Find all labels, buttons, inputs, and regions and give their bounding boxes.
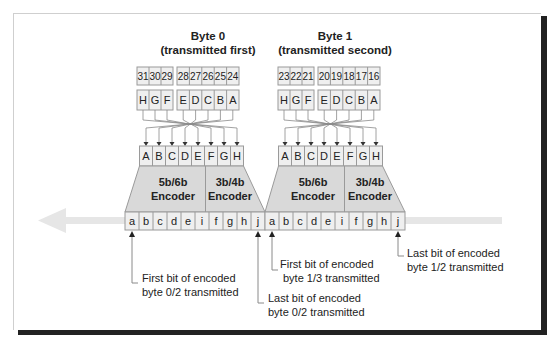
svg-text:e: e xyxy=(325,215,331,227)
byte-1-3b4b-label: 3b/4b xyxy=(356,176,385,188)
svg-text:A: A xyxy=(370,94,378,106)
byte-1-bit-reversal-wires xyxy=(284,110,376,142)
svg-text:25: 25 xyxy=(215,71,227,82)
svg-text:A: A xyxy=(281,150,289,162)
svg-text:F: F xyxy=(305,94,312,106)
svg-text:h: h xyxy=(241,215,247,227)
byte-1-encoded-bits: a b c d e i f g h j xyxy=(265,212,405,230)
svg-text:E: E xyxy=(321,94,328,106)
svg-text:E: E xyxy=(333,150,340,162)
svg-text:byte 0/2 transmitted: byte 0/2 transmitted xyxy=(268,306,365,318)
byte-1-subtitle: (transmitted second) xyxy=(278,44,392,56)
annotation-first-bit-byte-1: First bit of encoded byte 1/3 transmitte… xyxy=(269,231,380,284)
svg-text:a: a xyxy=(129,215,136,227)
annotation-first-bit-byte-0: First bit of encoded byte 0/2 transmitte… xyxy=(129,231,239,298)
svg-text:b: b xyxy=(283,215,289,227)
byte-0-input-letters: H G F E D C B A xyxy=(137,90,239,110)
svg-text:D: D xyxy=(320,150,328,162)
byte-1-reordered-letters: A B C D E F G H xyxy=(279,146,383,166)
svg-text:h: h xyxy=(381,215,387,227)
svg-text:27: 27 xyxy=(190,71,202,82)
svg-text:16: 16 xyxy=(368,71,380,82)
byte-1-bit-numbers: 23 22 21 20 19 18 17 16 xyxy=(278,67,380,85)
svg-text:E: E xyxy=(194,150,201,162)
svg-text:c: c xyxy=(157,215,163,227)
svg-text:B: B xyxy=(217,94,224,106)
svg-text:C: C xyxy=(345,94,353,106)
svg-text:byte 0/2 transmitted: byte 0/2 transmitted xyxy=(142,286,239,298)
byte-0-group: Byte 0 (transmitted first) 31 30 29 28 2… xyxy=(125,30,265,230)
svg-text:C: C xyxy=(168,150,176,162)
svg-text:i: i xyxy=(341,215,343,227)
byte-0-bit-numbers: 31 30 29 28 27 26 25 24 xyxy=(137,67,239,85)
svg-text:byte 1/3 transmitted: byte 1/3 transmitted xyxy=(283,272,380,284)
byte-0-3b4b-label: 3b/4b xyxy=(216,176,245,188)
svg-text:C: C xyxy=(204,94,212,106)
byte-1-input-letters: H G F E D C B A xyxy=(278,90,380,110)
svg-text:C: C xyxy=(307,150,315,162)
svg-text:D: D xyxy=(333,94,341,106)
byte-0-reordered-letters: A B C D E F G H xyxy=(140,146,244,166)
byte-1-title: Byte 1 xyxy=(318,30,353,42)
byte-0-subtitle: (transmitted first) xyxy=(160,44,255,56)
svg-text:H: H xyxy=(233,150,241,162)
svg-text:D: D xyxy=(192,94,200,106)
byte-1-group: Byte 1 (transmitted second) 23 22 21 20 … xyxy=(265,30,405,230)
svg-text:F: F xyxy=(164,94,171,106)
svg-text:byte 1/2 transmitted: byte 1/2 transmitted xyxy=(407,261,504,273)
svg-text:G: G xyxy=(359,150,368,162)
svg-text:A: A xyxy=(229,94,237,106)
svg-text:G: G xyxy=(151,94,160,106)
svg-text:g: g xyxy=(367,215,373,227)
svg-text:17: 17 xyxy=(356,71,368,82)
svg-text:F: F xyxy=(208,150,215,162)
svg-text:d: d xyxy=(171,215,177,227)
svg-text:Last bit of encoded: Last bit of encoded xyxy=(268,292,361,304)
svg-text:e: e xyxy=(185,215,191,227)
svg-text:F: F xyxy=(347,150,354,162)
svg-text:H: H xyxy=(372,150,380,162)
svg-text:22: 22 xyxy=(290,71,302,82)
svg-text:E: E xyxy=(180,94,187,106)
svg-text:31: 31 xyxy=(137,71,149,82)
svg-text:i: i xyxy=(201,215,203,227)
svg-text:G: G xyxy=(292,94,301,106)
svg-text:D: D xyxy=(181,150,189,162)
byte-0-encoded-bits: a b c d e i f g h j xyxy=(125,212,265,230)
svg-text:28: 28 xyxy=(178,71,190,82)
8b10b-encoding-diagram: Byte 0 (transmitted first) 31 30 29 28 2… xyxy=(0,0,558,343)
svg-text:b: b xyxy=(143,215,149,227)
svg-text:30: 30 xyxy=(149,71,161,82)
svg-text:c: c xyxy=(297,215,303,227)
svg-text:19: 19 xyxy=(331,71,343,82)
svg-text:29: 29 xyxy=(161,71,173,82)
svg-text:24: 24 xyxy=(227,71,239,82)
svg-text:Encoder: Encoder xyxy=(348,190,393,202)
byte-0-5b6b-label: 5b/6b xyxy=(159,176,188,188)
svg-text:23: 23 xyxy=(278,71,290,82)
byte-0-bit-reversal-wires xyxy=(143,110,237,142)
byte-0-wire-arrowheads xyxy=(144,142,240,146)
svg-text:B: B xyxy=(358,94,365,106)
svg-text:A: A xyxy=(142,150,150,162)
svg-text:H: H xyxy=(280,94,288,106)
svg-text:a: a xyxy=(269,215,276,227)
svg-text:H: H xyxy=(139,94,147,106)
svg-text:G: G xyxy=(220,150,229,162)
svg-text:20: 20 xyxy=(319,71,331,82)
svg-text:Encoder: Encoder xyxy=(208,190,253,202)
byte-1-wire-arrowheads xyxy=(283,142,379,146)
svg-text:B: B xyxy=(294,150,301,162)
byte-0-title: Byte 0 xyxy=(191,30,226,42)
svg-text:d: d xyxy=(311,215,317,227)
svg-text:B: B xyxy=(155,150,162,162)
svg-text:Encoder: Encoder xyxy=(291,190,336,202)
svg-text:Last bit of encoded: Last bit of encoded xyxy=(407,247,500,259)
byte-0-encoder: 5b/6b Encoder 3b/4b Encoder xyxy=(125,166,265,212)
svg-text:First bit of encoded: First bit of encoded xyxy=(142,272,236,284)
svg-text:j: j xyxy=(256,215,259,227)
byte-1-5b6b-label: 5b/6b xyxy=(299,176,328,188)
svg-text:First bit of encoded: First bit of encoded xyxy=(280,258,374,270)
annotation-last-bit-byte-1: Last bit of encoded byte 1/2 transmitted xyxy=(395,231,504,273)
byte-1-encoder: 5b/6b Encoder 3b/4b Encoder xyxy=(265,166,405,212)
